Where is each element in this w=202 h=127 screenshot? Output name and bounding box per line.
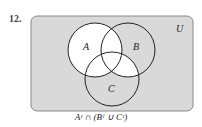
venn-diagram: A B C U — [0, 0, 202, 127]
universe-label: U — [176, 23, 184, 34]
set-expression: Aᶜ ∩ (Bᶜ ∪ Cᶜ) — [0, 112, 202, 122]
set-a-label: A — [82, 41, 90, 52]
set-b-label: B — [133, 41, 139, 52]
set-c-label: C — [108, 83, 115, 94]
